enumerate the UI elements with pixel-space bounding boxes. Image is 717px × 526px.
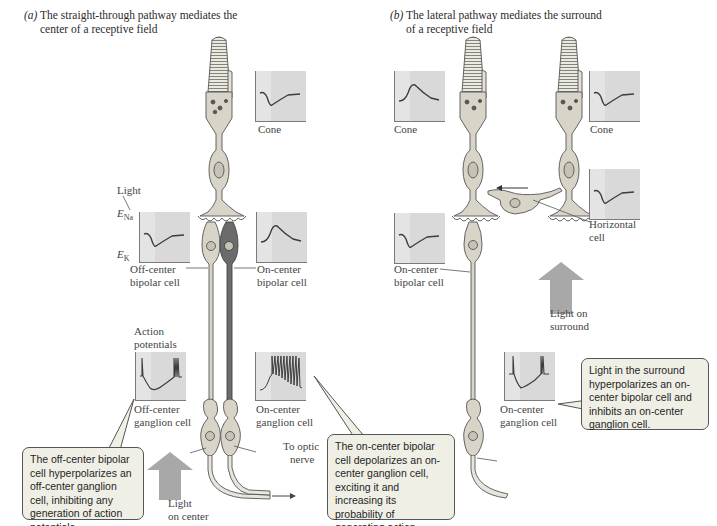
label-cone-b-left: Cone [394, 123, 417, 136]
on-ganglion-b-line1: On-center [500, 403, 544, 415]
optic-line1: To optic [283, 440, 319, 452]
graph-off-bipolar-a [139, 212, 190, 263]
on-bipolar-line2: bipolar cell [257, 276, 307, 288]
label-light-on-center: Light on center [168, 497, 209, 523]
label-on-ganglion-b: On-center ganglion cell [500, 403, 557, 429]
on-bipolar-cell-b [464, 222, 482, 400]
label-to-optic-nerve: To optic nerve [283, 440, 319, 466]
panel-a-letter: (a) [24, 9, 37, 21]
light-surround-line1: Light on [550, 307, 588, 319]
callout-off-center: The off-center bipolar cell hyperpolariz… [22, 447, 144, 520]
horizontal-line2: cell [589, 231, 605, 243]
graph-horizontal-cell [589, 169, 640, 220]
on-bipolar-b-line2: bipolar cell [394, 276, 444, 288]
cone-b-left [452, 37, 500, 221]
graph-cone-a [255, 71, 306, 122]
callout-surround: Light in the surround hyperpolarizes an … [581, 358, 709, 430]
optic-line2: nerve [283, 453, 314, 465]
panel-a-title: (a) The straight-through pathway mediate… [24, 8, 237, 36]
panel-b-title-line1: The lateral pathway mediates the surroun… [406, 9, 602, 21]
off-bipolar-line1: Off-center [130, 263, 176, 275]
action-line1: Action [134, 325, 164, 337]
on-ganglion-line1: On-center [256, 403, 300, 415]
label-cone-b-right: Cone [590, 123, 613, 136]
panel-a-title-line1: The straight-through pathway mediates th… [40, 9, 237, 21]
label-light: Light [117, 184, 141, 197]
e-k-letter: E [117, 248, 124, 260]
graph-off-ganglion-a [135, 352, 186, 401]
panel-a-title-line2: center of a receptive field [24, 23, 157, 35]
light-center-line1: Light [168, 497, 192, 509]
graph-on-bipolar-b [394, 213, 445, 264]
graph-on-ganglion-b [504, 352, 555, 401]
label-e-k: EK [117, 248, 130, 265]
label-off-ganglion-a: Off-center ganglion cell [134, 403, 191, 429]
on-ganglion-line2: ganglion cell [256, 416, 313, 428]
off-bipolar-line2: bipolar cell [130, 276, 180, 288]
on-bipolar-b-line1: On-center [394, 263, 438, 275]
graph-cone-b-left [394, 71, 445, 122]
action-line2: potentials [134, 338, 177, 350]
label-e-na: ENa [117, 207, 133, 224]
off-ganglion-line2: ganglion cell [134, 416, 191, 428]
graph-on-ganglion-a [255, 352, 306, 401]
light-center-line2: on center [168, 510, 209, 522]
off-bipolar-cell-a [202, 222, 220, 400]
off-ganglion-line1: Off-center [134, 403, 180, 415]
horizontal-line1: Horizontal [589, 218, 636, 230]
label-off-bipolar-a: Off-center bipolar cell [130, 263, 180, 289]
panel-b-letter: (b) [390, 9, 403, 21]
label-on-ganglion-a: On-center ganglion cell [256, 403, 313, 429]
label-action-potentials: Action potentials [134, 325, 177, 351]
callout-on-center: The on-center bipolar cell depolarizes a… [327, 434, 455, 520]
on-ganglion-b-line2: ganglion cell [500, 416, 557, 428]
graph-cone-b-right [589, 71, 640, 122]
graph-on-bipolar-a [256, 212, 307, 263]
label-horizontal-cell: Horizontal cell [589, 218, 636, 244]
e-na-subscript: Na [124, 213, 133, 222]
panel-b-title: (b) The lateral pathway mediates the sur… [390, 8, 602, 36]
on-bipolar-line1: On-center [257, 263, 301, 275]
label-light-on-surround: Light on surround [550, 307, 589, 333]
cone-a [198, 37, 246, 221]
label-cone-a: Cone [258, 123, 281, 136]
panel-b-title-line2: of a receptive field [390, 23, 493, 35]
e-k-subscript: K [124, 254, 130, 263]
label-on-bipolar-a: On-center bipolar cell [257, 263, 307, 289]
label-on-bipolar-b: On-center bipolar cell [394, 263, 444, 289]
e-na-letter: E [117, 207, 124, 219]
horizontal-cell [488, 188, 562, 214]
light-surround-line2: surround [550, 320, 589, 332]
on-bipolar-cell-a [220, 222, 238, 400]
